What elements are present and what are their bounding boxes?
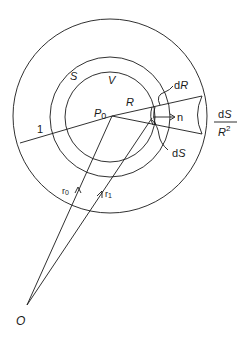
unit-radius-line	[20, 116, 112, 143]
label-n: n	[177, 111, 183, 123]
cone-lower-edge	[112, 116, 202, 134]
label-dR: dR	[174, 79, 188, 91]
label-dS: dS	[172, 147, 186, 159]
label-O: O	[16, 314, 25, 328]
label-V: V	[108, 74, 117, 86]
label-P0: P0	[94, 107, 106, 121]
vector-r1	[27, 118, 152, 305]
label-r0: r0	[62, 186, 69, 196]
label-r1: r1	[105, 189, 112, 199]
label-S: S	[70, 70, 78, 82]
projected-area-arc	[198, 96, 203, 134]
label-1: 1	[37, 123, 43, 135]
diagram-canvas: S V R P0 1 dR n dS dS R2 r0 r1 O	[0, 0, 243, 342]
fraction-numerator: dS	[218, 108, 232, 120]
vector-r0	[27, 116, 112, 305]
surface-element-dS	[151, 107, 153, 125]
label-R: R	[126, 96, 134, 108]
fraction-denominator: R2	[218, 124, 231, 138]
